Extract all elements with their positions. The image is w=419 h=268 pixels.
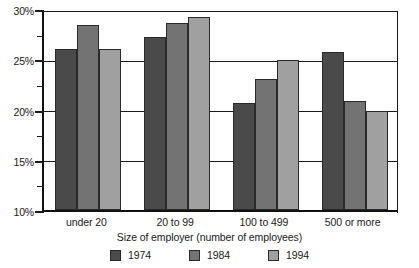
legend-label-1984: 1984 <box>207 249 230 261</box>
y-axis-minor-tick-22.5 <box>37 86 44 87</box>
y-axis-tick-10 <box>35 211 44 213</box>
y-axis-tick-25 <box>35 60 44 62</box>
y-axis-label-25: 25% <box>14 55 34 67</box>
legend-label-1974: 1974 <box>128 249 151 261</box>
x-axis-label-500-or-more: 500 or more <box>308 216 397 228</box>
bar-1974-100-to-499 <box>233 103 255 210</box>
bar-1984-20-to-99 <box>166 23 188 210</box>
gridline-30 <box>44 11 397 12</box>
bar-chart: 10%15%20%25%30% under 2020 to 99100 to 4… <box>0 0 419 268</box>
x-axis-label-20-to-99: 20 to 99 <box>131 216 220 228</box>
legend-item-1984: 1984 <box>189 249 230 261</box>
y-axis-label-15: 15% <box>14 156 34 168</box>
legend-swatch-1994 <box>268 250 279 261</box>
y-axis-label-20: 20% <box>14 106 34 118</box>
bar-1974-500-or-more <box>322 52 344 210</box>
bar-1994-20-to-99 <box>188 17 210 210</box>
legend-swatch-1984 <box>189 250 200 261</box>
y-axis-minor-tick-27.5 <box>37 36 44 37</box>
bar-1994-500-or-more <box>366 111 388 210</box>
legend-label-1994: 1994 <box>286 249 309 261</box>
bar-1974-under-20 <box>55 49 77 210</box>
y-axis-label-30: 30% <box>14 5 34 17</box>
legend-item-1994: 1994 <box>268 249 309 261</box>
legend-swatch-1974 <box>110 250 121 261</box>
bar-1994-100-to-499 <box>277 60 299 210</box>
x-axis-title: Size of employer (number of employees) <box>0 231 419 243</box>
y-axis-minor-tick-17.5 <box>37 136 44 137</box>
chart-legend: 197419841994 <box>0 249 419 261</box>
y-axis-label-10: 10% <box>14 206 34 218</box>
x-axis-label-100-to-499: 100 to 499 <box>220 216 309 228</box>
y-axis-tick-20 <box>35 111 44 113</box>
bar-1994-under-20 <box>99 49 121 210</box>
bar-1984-under-20 <box>77 25 99 210</box>
bar-1984-500-or-more <box>344 101 366 210</box>
x-axis-label-under-20: under 20 <box>42 216 131 228</box>
y-axis-minor-tick-12.5 <box>37 186 44 187</box>
y-axis-tick-30 <box>35 10 44 12</box>
y-axis-tick-15 <box>35 161 44 163</box>
legend-item-1974: 1974 <box>110 249 151 261</box>
plot-area: 10%15%20%25%30% <box>42 11 397 212</box>
bar-1984-100-to-499 <box>255 79 277 210</box>
bar-1974-20-to-99 <box>144 37 166 210</box>
plot-frame-right <box>397 11 398 213</box>
